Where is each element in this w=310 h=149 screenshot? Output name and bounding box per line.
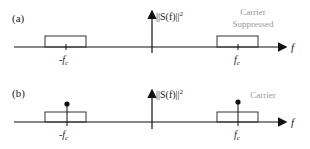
neg-fc-label: -fc: [59, 129, 69, 142]
pos-carrier-dot: [235, 99, 240, 104]
carrier-suppressed-line2: Suppressed: [233, 19, 274, 29]
neg-sideband-box: [45, 112, 86, 122]
panel-a-label: (a): [12, 12, 25, 25]
carrier-suppressed-line1: Carrier: [240, 7, 265, 17]
y-axis-label: ||S(f)||2: [156, 10, 184, 23]
spectrum-diagram: (a) ||S(f)||2 f -fc fc Carrier Suppresse…: [0, 0, 310, 149]
neg-fc-label: -fc: [59, 54, 69, 67]
panel-b-label: (b): [12, 87, 25, 100]
x-axis-label: f: [291, 116, 296, 128]
pos-fc-label: fc: [234, 54, 241, 67]
panel-b: (b) ||S(f)||2 f -fc fc Carrier: [12, 87, 296, 142]
x-axis-label: f: [291, 41, 296, 53]
carrier-label: Carrier: [250, 90, 275, 100]
y-axis-label: ||S(f)||2: [156, 88, 184, 101]
panel-a: (a) ||S(f)||2 f -fc fc Carrier Suppresse…: [12, 7, 296, 67]
neg-carrier-dot: [64, 101, 69, 106]
pos-fc-label: fc: [234, 129, 241, 142]
